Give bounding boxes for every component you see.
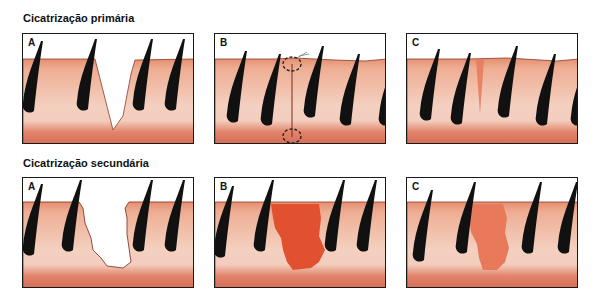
panel-label: C — [412, 181, 419, 192]
panel-primary-a: A — [22, 33, 194, 144]
panel-primary-c: C — [406, 33, 578, 144]
panel-label: B — [220, 37, 227, 48]
panel-secondary-b: B — [214, 177, 386, 288]
panel-primary-b: B — [214, 33, 386, 144]
panel-label: B — [220, 181, 227, 192]
row-title-primary: Cicatrização primária — [23, 12, 134, 24]
panel-label: A — [28, 181, 35, 192]
panel-secondary-c: C — [406, 177, 578, 288]
panel-secondary-a: A — [22, 177, 194, 288]
panel-label: A — [28, 37, 35, 48]
row-title-secondary: Cicatrização secundária — [23, 157, 149, 169]
panel-label: C — [412, 37, 419, 48]
